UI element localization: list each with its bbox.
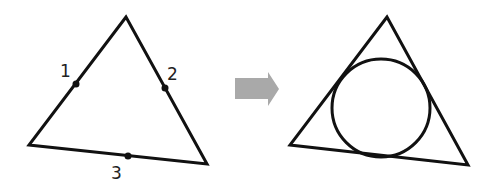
left-triangle	[29, 17, 207, 164]
incircle-diagram: 123	[0, 0, 487, 189]
right-triangle	[290, 17, 468, 165]
point-label-3: 3	[111, 163, 122, 183]
tangent-point-1	[73, 81, 80, 88]
tangent-point-2	[162, 85, 169, 92]
point-label-1: 1	[60, 61, 71, 81]
point-label-2: 2	[167, 64, 178, 84]
tangent-point-3	[125, 153, 132, 160]
incircle	[332, 59, 430, 157]
arrow-icon	[235, 72, 279, 106]
